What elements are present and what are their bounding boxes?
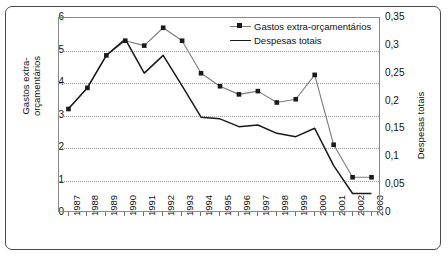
series-marker	[237, 92, 242, 97]
series-marker	[180, 38, 185, 43]
y-axis-right-tick-label: 0,35	[385, 12, 419, 22]
series-marker	[312, 73, 317, 78]
series-marker	[142, 43, 147, 48]
y-axis-right-tick-label: 0	[385, 207, 419, 217]
series-line	[68, 28, 371, 178]
series-marker	[293, 97, 298, 102]
chart-legend: Gastos extra-orçamentários Despesas tota…	[228, 19, 376, 47]
legend-label-despesas: Despesas totais	[254, 34, 322, 47]
y-axis-left-title: Gastos extra-orçamentários	[20, 31, 42, 141]
series-marker	[350, 175, 355, 180]
y-axis-right-tick-label: 0,25	[385, 68, 419, 78]
series-marker	[369, 175, 374, 180]
y-axis-right-tick-label: 0,3	[385, 40, 419, 50]
series-marker	[199, 71, 204, 76]
legend-label-gastos: Gastos extra-orçamentários	[254, 20, 371, 33]
legend-marker-square-icon	[228, 20, 254, 32]
series-marker	[256, 89, 261, 94]
y-axis-right-tick-label: 0,05	[385, 179, 419, 189]
legend-item-gastos: Gastos extra-orçamentários	[228, 19, 376, 33]
series-marker	[331, 142, 336, 147]
y-axis-right-tick-label: 0,2	[385, 96, 419, 106]
series-marker	[275, 100, 280, 105]
series-marker	[161, 25, 166, 30]
y-axis-right-tick-label: 0,15	[385, 123, 419, 133]
y-axis-right-tick-label: 0,1	[385, 151, 419, 161]
legend-line-icon	[228, 34, 254, 46]
chart-figure: Gastos extra-orçamentários Despesas tota…	[0, 0, 448, 257]
series-marker	[218, 84, 223, 89]
legend-item-despesas: Despesas totais	[228, 33, 376, 47]
series-canvas	[59, 18, 381, 213]
